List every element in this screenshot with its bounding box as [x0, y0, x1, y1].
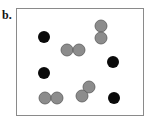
gray-particle: [95, 32, 107, 44]
black-particle: [107, 56, 119, 68]
gray-particle: [39, 92, 51, 104]
gray-particle: [95, 20, 107, 32]
particle-diagram: [0, 0, 145, 123]
gray-particle: [51, 92, 63, 104]
gray-particle: [76, 90, 88, 102]
gray-particle: [61, 44, 73, 56]
black-particle: [108, 92, 120, 104]
gray-particle: [73, 44, 85, 56]
black-particle: [38, 67, 50, 79]
black-particle: [38, 31, 50, 43]
